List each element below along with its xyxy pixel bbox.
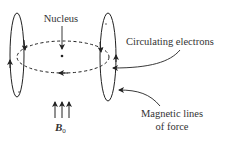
circulating-electrons-label: Circulating electrons (126, 36, 214, 47)
field-symbol-label: B0 (54, 121, 66, 135)
electrons-pointer-arrow-icon (113, 50, 180, 68)
electron-orbit (17, 41, 109, 73)
circulating-electrons-callout: Circulating electrons (113, 36, 214, 68)
magnetic-shielding-diagram: Nucleus Circulating electrons Magnetic l… (0, 0, 233, 143)
nucleus: Nucleus (44, 13, 78, 57)
nucleus-dot-icon (61, 55, 64, 58)
nucleus-label: Nucleus (44, 13, 78, 24)
magnetic-lines-pointer-arrow-icon (119, 90, 160, 106)
external-field-b0: B0 (54, 102, 69, 135)
magnetic-lines-callout: Magnetic lines of force (119, 90, 203, 132)
magnetic-lines-label-line1: Magnetic lines (141, 108, 203, 119)
magnetic-lines-label-line2: of force (156, 121, 189, 132)
right-field-loop (100, 13, 116, 101)
